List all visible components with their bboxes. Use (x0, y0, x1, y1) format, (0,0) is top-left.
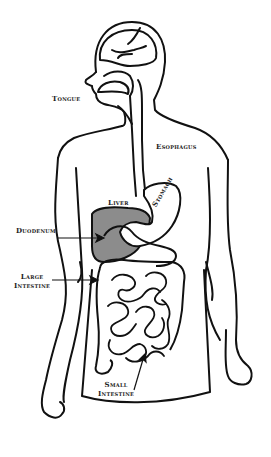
small-intestine-label-line2: Intestine (98, 389, 134, 398)
brain (100, 30, 156, 66)
tongue-shape (98, 81, 129, 94)
esophagus-left (130, 96, 136, 196)
large-intestine-label-line2: Intestine (14, 281, 50, 290)
esophagus-label: Esophagus (156, 142, 197, 151)
large-intestine-label-line1: Large (14, 272, 50, 281)
left-shoulder (58, 126, 122, 158)
duodenum-label: Duodenum (16, 226, 56, 235)
right-torso (226, 160, 252, 385)
small-intestine-label-line1: Small (98, 380, 134, 389)
large-intestine (96, 259, 185, 373)
tongue-label: Tongue (52, 94, 80, 103)
large-intestine-label: Large Intestine (14, 272, 50, 290)
face-outline (85, 72, 125, 126)
esophagus-right (138, 80, 145, 190)
liver-label: Liver (108, 198, 129, 207)
small-intestine (108, 273, 170, 362)
right-inner-arm (206, 168, 220, 340)
small-intestine-label: Small Intestine (98, 380, 134, 398)
